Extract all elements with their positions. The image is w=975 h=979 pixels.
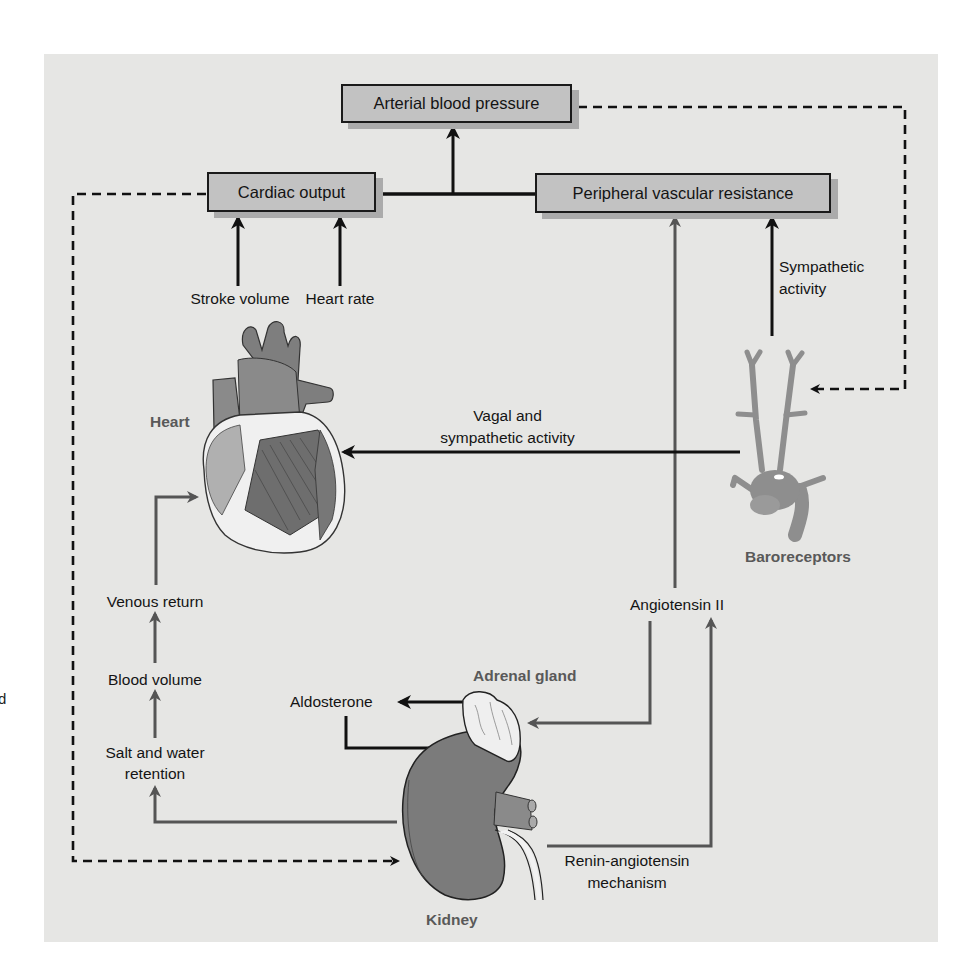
venous-return-label: Venous return [90, 591, 220, 612]
kidney-label: Kidney [426, 911, 478, 929]
co-pvr-connector [375, 128, 535, 194]
renin-label-2: mechanism [547, 872, 707, 893]
vagal-label-2: sympathetic activity [420, 427, 595, 448]
kidney-illustration [403, 692, 543, 900]
renin-label-1: Renin-angiotensin [547, 850, 707, 871]
blood-volume-label: Blood volume [90, 669, 220, 690]
baroreceptors-label: Baroreceptors [745, 548, 851, 566]
vagal-label-1: Vagal and [420, 405, 595, 426]
heart-label: Heart [150, 413, 190, 431]
adrenal-gland-label: Adrenal gland [473, 667, 576, 685]
stroke-volume-label: Stroke volume [185, 288, 295, 309]
diagram-connectors [0, 0, 975, 979]
aldosterone-label: Aldosterone [290, 691, 373, 712]
sympathetic-activity-label-2: activity [779, 278, 826, 299]
heart-rate-label: Heart rate [297, 288, 383, 309]
salt-water-label-1: Salt and water [85, 742, 225, 763]
abp-baroreceptor-dashed [578, 107, 905, 389]
heart-illustration [203, 322, 344, 553]
baroreceptor-illustration [733, 352, 823, 535]
angiotensin-ii-label: Angiotensin II [612, 594, 742, 615]
sympathetic-activity-label-1: Sympathetic [779, 256, 864, 277]
kidney-to-salt-arrow [155, 788, 397, 822]
venous-to-heart-arrow [156, 497, 196, 585]
salt-water-label-2: retention [85, 763, 225, 784]
cardiac-output-box: Cardiac output [207, 172, 376, 212]
arterial-blood-pressure-box: Arterial blood pressure [341, 84, 572, 123]
peripheral-vascular-resistance-box: Peripheral vascular resistance [535, 173, 831, 213]
renin-angiotensin-arrow [547, 620, 711, 846]
